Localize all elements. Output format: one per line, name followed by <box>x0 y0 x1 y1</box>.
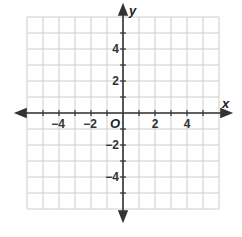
y-tick-label-2: 2 <box>112 74 119 88</box>
y-axis-up-arrow-icon <box>119 5 127 15</box>
x-axis-left-arrow-icon <box>16 109 26 117</box>
y-axis-down-arrow-icon <box>119 211 127 221</box>
y-axis-label: y <box>128 3 137 18</box>
origin-label: O <box>110 116 120 131</box>
y-tick-label-4: 4 <box>112 42 119 56</box>
x-tick-label-4: 4 <box>184 117 191 131</box>
x-tick-label-neg4: −4 <box>51 117 65 131</box>
x-axis-label: x <box>221 96 230 111</box>
x-tick-label-neg2: −2 <box>83 117 97 131</box>
x-tick-label-2: 2 <box>152 117 159 131</box>
y-tick-label-neg2: −2 <box>105 138 119 152</box>
y-tick-label-neg4: −4 <box>105 170 119 184</box>
axes <box>16 5 231 221</box>
coordinate-plane: x y O −4 −2 2 4 4 2 −2 −4 <box>0 0 242 237</box>
